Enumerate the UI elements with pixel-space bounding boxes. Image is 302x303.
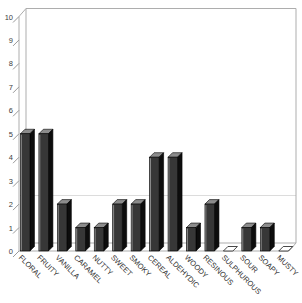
y-axis-tick-label: 1	[9, 224, 13, 233]
bar-side-face	[270, 223, 275, 251]
bar-side-face	[67, 200, 72, 251]
y-axis-tick-label: 3	[9, 177, 13, 186]
bar	[168, 157, 178, 251]
bar-side-face	[104, 223, 109, 251]
y-axis-tick	[13, 17, 19, 23]
bar	[150, 157, 160, 251]
bar	[94, 228, 104, 251]
bar	[76, 228, 86, 251]
y-axis-tick	[13, 251, 19, 257]
y-axis-tick	[13, 63, 19, 69]
bar-chart-canvas: 012345678910FLORALFRUITYVANILLACARAMELNU…	[0, 0, 302, 303]
bar-side-face	[178, 153, 183, 251]
y-axis-tick-label: 5	[9, 130, 13, 139]
y-axis-tick-label: 9	[9, 36, 13, 45]
bar-side-face	[122, 200, 127, 251]
bar-zero-marker	[223, 247, 237, 252]
y-axis-tick-label: 10	[5, 13, 13, 22]
bar-side-face	[159, 153, 164, 251]
y-axis-tick	[13, 40, 19, 46]
bar-side-face	[141, 200, 146, 251]
y-axis-tick-label: 4	[9, 153, 13, 162]
y-axis-tick-label: 6	[9, 106, 13, 115]
bar	[57, 204, 67, 251]
bar-side-face	[30, 129, 35, 251]
bar-zero-marker	[279, 247, 293, 252]
bar	[187, 228, 197, 251]
bar-side-face	[251, 223, 256, 251]
y-axis-tick	[13, 181, 19, 187]
bar-side-face	[48, 129, 53, 251]
bar-side-face	[85, 223, 90, 251]
bar-side-face	[214, 200, 219, 251]
y-axis-tick-label: 0	[9, 247, 13, 256]
bar-chart: 012345678910FLORALFRUITYVANILLACARAMELNU…	[0, 0, 302, 303]
bar	[20, 134, 30, 251]
y-axis-tick	[13, 87, 19, 93]
wall-top-left-edge	[19, 9, 26, 17]
y-axis-tick	[13, 134, 19, 140]
bar	[39, 134, 49, 251]
y-axis-tick	[13, 228, 19, 234]
bar	[260, 228, 270, 251]
y-axis-tick	[13, 110, 19, 116]
category-label: MUSTY	[275, 253, 300, 278]
y-axis-tick-label: 8	[9, 59, 13, 68]
y-axis-tick-label: 2	[9, 200, 13, 209]
bar	[242, 228, 252, 251]
y-axis-tick-label: 7	[9, 83, 13, 92]
bar	[113, 204, 123, 251]
bar	[205, 204, 215, 251]
bar-side-face	[196, 223, 201, 251]
y-axis-tick	[13, 204, 19, 210]
y-axis-tick	[13, 157, 19, 163]
bar	[131, 204, 141, 251]
